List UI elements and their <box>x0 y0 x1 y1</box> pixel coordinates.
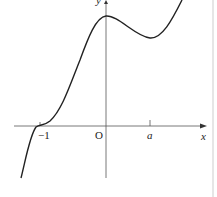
x-axis-arrow-icon <box>200 124 207 129</box>
x-axis-label: x <box>200 130 206 142</box>
y-axis-label: y <box>95 0 101 6</box>
origin-label: O <box>95 129 103 141</box>
graph: y −1 O a x <box>0 0 217 197</box>
tick-label-a: a <box>147 129 153 141</box>
y-axis-arrow-icon <box>104 0 108 4</box>
tick-label-minus-one: −1 <box>38 129 50 141</box>
function-curve <box>21 0 182 178</box>
